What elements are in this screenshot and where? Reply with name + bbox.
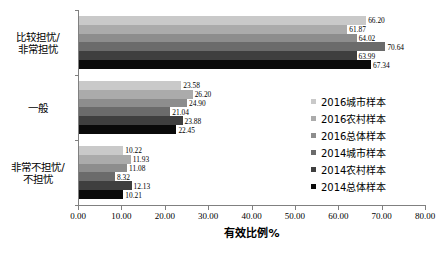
x-axis-tick-mark [252,206,253,210]
bar[interactable] [79,99,187,108]
y-axis-tick [75,140,79,141]
x-axis-tick-mark [121,206,122,210]
x-axis-tick-label: 80.00 [415,211,435,221]
bar[interactable] [79,172,115,181]
bar[interactable] [79,16,366,25]
bar-value-label: 11.93 [131,155,149,164]
x-axis-tick-mark [78,206,79,210]
x-axis-tick-label: 0.00 [70,211,86,221]
y-axis-tick [75,75,79,76]
legend-swatch-icon [311,184,316,189]
bar[interactable] [79,90,193,99]
x-axis-tick-label: 10.00 [111,211,131,221]
bar-value-label: 70.64 [385,42,404,51]
bar[interactable] [79,25,347,34]
bar-value-label: 10.21 [123,190,142,199]
bar-value-label: 61.87 [347,25,366,34]
bar[interactable] [79,181,132,190]
bar-row: 66.20 [79,16,426,25]
legend-label: 2014总体样本 [321,179,386,194]
x-axis-title: 有效比例% [78,224,426,240]
legend-item[interactable]: 2014城市样本 [311,144,441,161]
bar[interactable] [79,107,170,116]
bar-row: 67.34 [79,60,426,69]
bar[interactable] [79,60,371,69]
x-axis-tick-label: 70.00 [372,211,392,221]
category-label: 非常不担忧/不担忧 [0,161,76,185]
x-axis-tick-label: 60.00 [328,211,348,221]
x-axis-tick-label: 40.00 [241,211,261,221]
x-axis-tick-mark [425,206,426,210]
bar-value-label: 8.32 [115,172,130,181]
legend-swatch-icon [311,116,316,121]
x-axis-ticks: 0.0010.0020.0030.0040.0050.0060.0070.008… [78,206,426,226]
bar-value-label: 64.02 [357,34,376,43]
legend-swatch-icon [311,150,316,155]
bar-value-label: 23.58 [181,81,200,90]
legend-swatch-icon [311,133,316,138]
bar[interactable] [79,190,123,199]
legend-item[interactable]: 2016总体样本 [311,127,441,144]
x-axis-tick-label: 50.00 [285,211,305,221]
x-axis-tick-mark [208,206,209,210]
bar-row: 61.87 [79,25,426,34]
bar[interactable] [79,51,357,60]
legend-swatch-icon [311,167,316,172]
x-axis-tick-mark [295,206,296,210]
bar-value-label: 12.13 [132,181,151,190]
category-label: 一般 [0,102,76,114]
x-axis-tick-label: 30.00 [198,211,218,221]
bar-group: 66.2061.8764.0270.6463.9967.34 [79,16,426,69]
figure-caption [0,245,443,254]
bar-value-label: 23.88 [183,116,202,125]
legend-label: 2014农村样本 [321,162,386,177]
legend-item[interactable]: 2016城市样本 [311,93,441,110]
bar[interactable] [79,81,181,90]
category-label: 比较担忧/非常担忧 [0,31,76,55]
bar-value-label: 26.20 [193,90,212,99]
bar[interactable] [79,116,183,125]
bar[interactable] [79,155,131,164]
bar-chart: 比较担忧/非常担忧一般非常不担忧/不担忧 66.2061.8764.0270.6… [0,0,443,254]
bar-value-label: 67.34 [371,60,390,69]
legend-label: 2016农村样本 [321,111,386,126]
legend-item[interactable]: 2014农村样本 [311,161,441,178]
bar-row: 63.99 [79,51,426,60]
bar-value-label: 66.20 [366,16,385,25]
bar[interactable] [79,125,176,134]
y-axis-tick [75,10,79,11]
legend-label: 2014城市样本 [321,145,386,160]
bar-value-label: 11.08 [127,164,145,173]
legend-item[interactable]: 2014总体样本 [311,178,441,195]
x-axis-tick-mark [382,206,383,210]
bar-value-label: 21.04 [170,107,189,116]
bar[interactable] [79,146,123,155]
legend-label: 2016总体样本 [321,128,386,143]
legend-swatch-icon [311,99,316,104]
bar-value-label: 10.22 [123,146,142,155]
bar[interactable] [79,42,385,51]
x-axis-tick-label: 20.00 [155,211,175,221]
bar-row: 64.02 [79,34,426,43]
x-axis-tick-mark [338,206,339,210]
chart-legend: 2016城市样本2016农村样本2016总体样本2014城市样本2014农村样本… [311,93,441,195]
bar-value-label: 22.45 [176,125,195,134]
x-axis-tick-mark [165,206,166,210]
category-axis-labels: 比较担忧/非常担忧一般非常不担忧/不担忧 [0,0,76,205]
bar[interactable] [79,34,357,43]
legend-item[interactable]: 2016农村样本 [311,110,441,127]
bar-value-label: 24.90 [187,99,206,108]
legend-label: 2016城市样本 [321,94,386,109]
bar[interactable] [79,164,127,173]
bar-row: 23.58 [79,81,426,90]
bar-row: 70.64 [79,42,426,51]
bar-value-label: 63.99 [357,51,376,60]
